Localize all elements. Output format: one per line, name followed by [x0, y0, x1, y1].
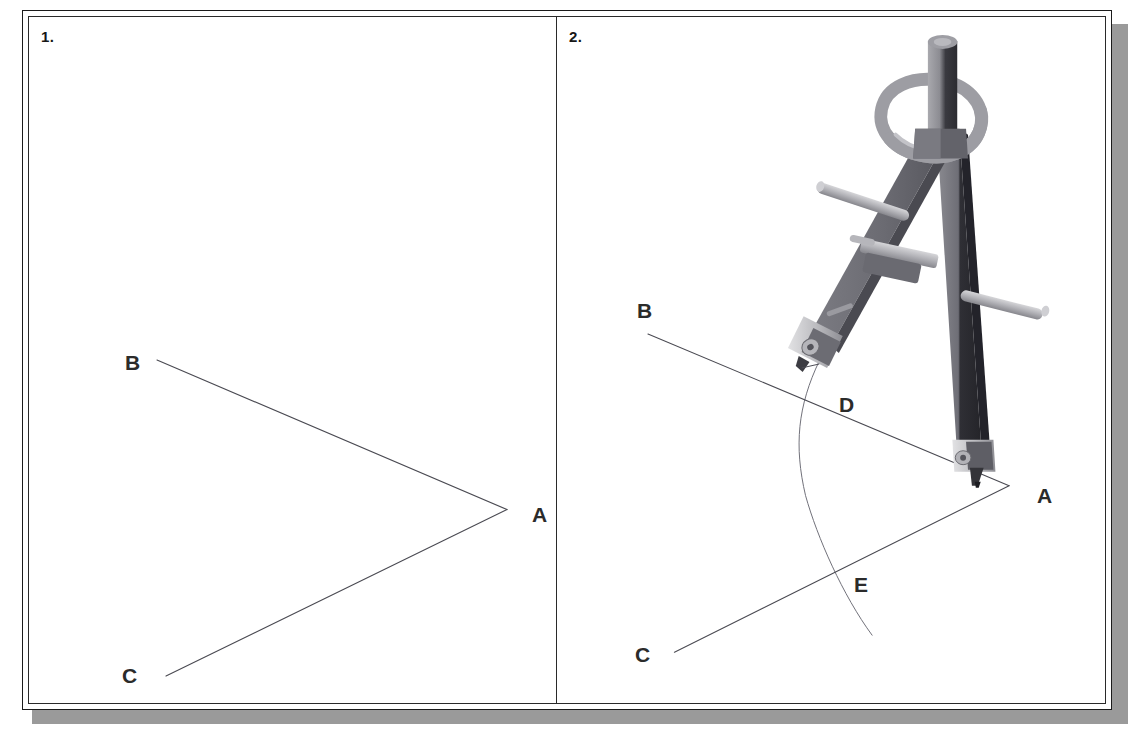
panel-2-figure [557, 17, 1105, 703]
panel-1: 1. B A C [29, 17, 556, 703]
point-label-c: C [635, 644, 650, 665]
point-label-b: B [125, 352, 140, 373]
ray-ab-line [157, 360, 507, 510]
panel-1-figure [29, 17, 556, 703]
panel-2: 2. [557, 17, 1105, 703]
worksheet-root: 1. B A C 2. [0, 0, 1139, 746]
point-label-a: A [1037, 485, 1052, 506]
point-label-a: A [532, 504, 547, 525]
point-label-c: C [122, 665, 137, 686]
point-label-b: B [637, 300, 652, 321]
worksheet-card-outer-border: 1. B A C 2. [22, 10, 1112, 710]
worksheet-card-inner-border: 1. B A C 2. [28, 16, 1106, 704]
point-label-d: D [839, 394, 854, 415]
point-label-e: E [854, 574, 868, 595]
ray-ac-line [674, 486, 1009, 653]
ray-ab-line [648, 334, 1009, 486]
ray-ac-line [166, 510, 507, 677]
